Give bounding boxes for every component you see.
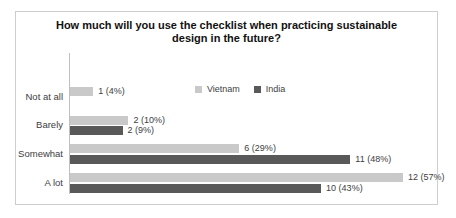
bar-label-vietnam-a-lot: 12 (57%) <box>408 173 445 182</box>
bar-vietnam-barely <box>70 116 128 125</box>
bar-vietnam-not-at-all <box>70 87 93 96</box>
category-label-barely: Barely <box>16 119 63 131</box>
bar-label-vietnam-not-at-all: 1 (4%) <box>98 87 125 96</box>
bar-vietnam-somewhat <box>70 144 239 153</box>
category-label-somewhat: Somewhat <box>16 148 63 160</box>
bar-label-vietnam-barely: 2 (10%) <box>133 116 165 125</box>
chart-canvas: How much will you use the checklist when… <box>0 0 456 218</box>
bar-india-a-lot <box>70 184 321 193</box>
category-label-not-at-all: Not at all <box>16 91 63 103</box>
bar-label-india-somewhat: 11 (48%) <box>355 155 391 164</box>
chart-frame: How much will you use the checklist when… <box>15 11 438 205</box>
bar-vietnam-a-lot <box>70 173 403 182</box>
bar-india-somewhat <box>70 155 350 164</box>
bar-label-india-barely: 2 (9%) <box>128 126 155 135</box>
plot-area: Not at all1 (4%)Barely2 (10%)2 (9%)Somew… <box>16 12 437 204</box>
bar-india-barely <box>70 126 123 135</box>
bar-label-india-a-lot: 10 (43%) <box>326 184 363 193</box>
bar-label-vietnam-somewhat: 6 (29%) <box>244 144 276 153</box>
category-label-a-lot: A lot <box>16 177 63 189</box>
